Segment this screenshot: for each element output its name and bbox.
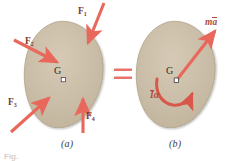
force-label-f4-subscript: 4 [92, 116, 95, 122]
figure-container: F1 F2 F3 F4 G G ma Iα (a) (b) Fig. [0, 0, 242, 161]
resultant-force-accel-symbol: a [212, 17, 217, 28]
force-label-f2: F2 [25, 37, 34, 47]
panel-a-caption: (a) [61, 138, 73, 149]
force-label-f2-symbol: F [25, 36, 31, 46]
figure-bottom-caption: Fig. [4, 152, 18, 161]
moment-label: Iα [150, 90, 159, 101]
equals-sign-glyph [114, 69, 132, 80]
force-label-f3-symbol: F [8, 97, 14, 107]
panel-b-body-shape [136, 21, 215, 127]
force-label-f2-subscript: 2 [31, 41, 34, 47]
force-label-f1-subscript: 1 [84, 11, 87, 17]
center-of-mass-marker-a [61, 78, 65, 82]
force-label-f4: F4 [86, 112, 95, 122]
moment-alpha-symbol: α [154, 90, 159, 100]
center-of-mass-label-a: G [54, 66, 61, 76]
resultant-force-label: ma [205, 17, 217, 28]
force-label-f4-symbol: F [86, 111, 92, 121]
center-of-mass-label-b: G [166, 66, 173, 76]
force-arrow-f1 [88, 3, 104, 43]
force-label-f3: F3 [8, 98, 17, 108]
center-of-mass-marker-b [174, 78, 178, 82]
panel-b-caption: (b) [169, 138, 181, 149]
resultant-force-mass-symbol: m [205, 17, 212, 27]
force-label-f3-subscript: 3 [14, 102, 17, 108]
force-label-f1-symbol: F [78, 6, 84, 16]
force-label-f1: F1 [78, 7, 87, 17]
